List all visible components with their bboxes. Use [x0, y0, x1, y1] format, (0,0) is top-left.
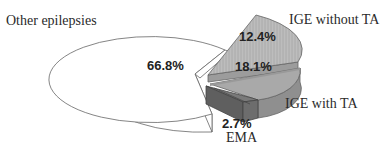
slice-other-epilepsies [49, 37, 230, 133]
label-other-epilepsies: Other epilepsies [6, 14, 97, 28]
label-ige-without-ta: IGE without TA [289, 13, 379, 27]
label-ige-with-ta: IGE with TA [285, 97, 358, 111]
label-ema: EMA [226, 131, 257, 145]
percent-ema: 2.7% [222, 117, 252, 130]
percent-ige-with-ta: 18.1% [235, 60, 272, 73]
percent-ige-without-ta: 12.4% [239, 30, 276, 43]
percent-other-epilepsies: 66.8% [147, 59, 184, 72]
